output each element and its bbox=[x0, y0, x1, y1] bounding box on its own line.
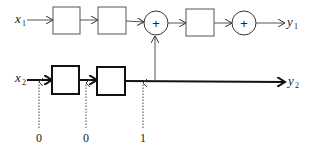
control-label-1: 0 bbox=[36, 131, 42, 145]
control-label-3: 1 bbox=[140, 131, 146, 145]
edge-block2-to-sum1 bbox=[126, 21, 144, 22]
control-label-2: 0 bbox=[83, 131, 89, 145]
top-block-3 bbox=[186, 9, 214, 36]
svg-text:y: y bbox=[285, 14, 293, 29]
svg-text:x: x bbox=[14, 11, 21, 26]
output-y2-label: y 2 bbox=[286, 73, 299, 90]
bottom-block-2 bbox=[97, 67, 125, 95]
block-diagram: x 1 + + y 1 x 2 y 2 0 0 1 bbox=[0, 0, 311, 154]
summer-1-plus: + bbox=[152, 16, 160, 31]
svg-text:2: 2 bbox=[295, 81, 299, 90]
svg-text:1: 1 bbox=[22, 19, 26, 28]
input-x1-label: x 1 bbox=[14, 11, 26, 28]
edge-bblock2-to-y2 bbox=[125, 81, 285, 82]
top-block-1 bbox=[53, 7, 80, 34]
svg-text:y: y bbox=[286, 73, 294, 88]
bottom-block-1 bbox=[52, 66, 79, 94]
svg-text:x: x bbox=[14, 70, 21, 85]
input-x2-label: x 2 bbox=[14, 70, 26, 87]
summer-2-plus: + bbox=[240, 16, 248, 31]
output-y1-label: y 1 bbox=[285, 14, 298, 31]
top-block-2 bbox=[98, 7, 126, 34]
svg-text:1: 1 bbox=[294, 22, 298, 31]
svg-text:2: 2 bbox=[22, 78, 26, 87]
